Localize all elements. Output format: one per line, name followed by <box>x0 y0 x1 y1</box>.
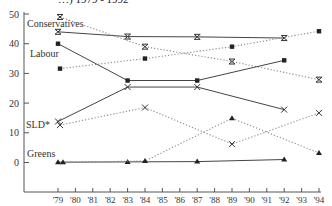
series-label: Labour <box>30 48 60 59</box>
y-tick-label: 30 <box>9 68 19 79</box>
x-marker <box>142 105 148 111</box>
square-marker <box>230 44 234 48</box>
x-tick-label: '90 <box>244 195 255 205</box>
square-marker <box>143 56 147 60</box>
x-tick-label: '83 <box>122 195 133 205</box>
square-marker <box>282 58 286 62</box>
series-line-greens-dotted <box>63 118 319 162</box>
y-tick-label: 20 <box>9 98 19 109</box>
x-tick-label: '80 <box>70 195 81 205</box>
y-tick-label: 0 <box>14 157 19 168</box>
x-box-marker <box>316 77 322 82</box>
x-tick-label: '91 <box>261 195 272 205</box>
line-chart: 01020304050'79'80'81'82'83'84'85'86'87'8… <box>0 0 332 206</box>
x-tick-label: '93 <box>296 195 307 205</box>
square-marker <box>195 78 199 82</box>
square-marker <box>58 66 62 70</box>
x-marker <box>316 110 322 116</box>
series-label: SLD* <box>26 119 50 130</box>
x-tick-label: '82 <box>105 195 116 205</box>
triangle-marker <box>229 115 235 120</box>
square-marker <box>56 42 60 46</box>
x-tick-label: '81 <box>87 195 98 205</box>
x-marker <box>281 107 287 113</box>
series-label: Greens <box>27 148 55 159</box>
x-marker <box>229 141 235 147</box>
x-tick-label: '84 <box>140 195 151 205</box>
x-tick-label: '92 <box>279 195 290 205</box>
y-tick-label: 50 <box>9 9 19 20</box>
x-tick-label: '85 <box>157 195 168 205</box>
triangle-marker <box>281 157 287 162</box>
x-tick-label: '89 <box>227 195 238 205</box>
square-marker <box>125 78 129 82</box>
x-tick-label: '88 <box>209 195 220 205</box>
triangle-marker <box>316 150 322 155</box>
square-marker <box>317 29 321 33</box>
x-tick-label: '79 <box>53 195 64 205</box>
x-tick-label: '94 <box>314 195 325 205</box>
series-line-sld-solid <box>58 87 284 121</box>
series-label: Conservatives <box>27 18 84 29</box>
x-box-marker <box>142 44 148 49</box>
y-tick-label: 40 <box>9 38 19 49</box>
series-line-labour-solid <box>58 44 284 81</box>
y-tick-label: 10 <box>9 127 19 138</box>
x-tick-label: '86 <box>174 195 185 205</box>
series-line-conservatives-solid <box>58 32 284 38</box>
x-tick-label: '87 <box>192 195 203 205</box>
